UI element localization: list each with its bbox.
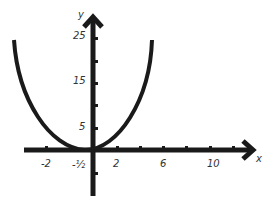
- x-tick-label-10: 10: [207, 158, 220, 169]
- x-tick-label-6: 6: [160, 158, 166, 169]
- chart: y x 25 15 5 -2 -½ 2 6 10: [0, 0, 278, 210]
- y-tick-label-5: 5: [79, 121, 85, 132]
- x-tick-label-neg2: -2: [41, 158, 51, 169]
- parabola-curve: [14, 40, 152, 150]
- y-axis-label: y: [77, 9, 85, 20]
- y-tick-label-15: 15: [73, 75, 86, 86]
- y-tick-label-25: 25: [73, 30, 86, 41]
- x-tick-label-2: 2: [113, 158, 119, 169]
- x-tick-label-neg-half: -½: [72, 159, 86, 170]
- x-axis-label: x: [255, 153, 262, 164]
